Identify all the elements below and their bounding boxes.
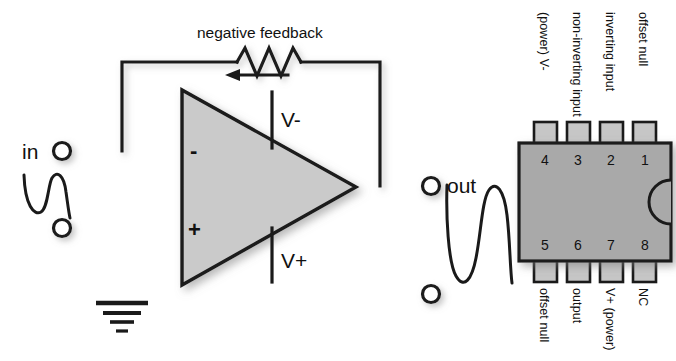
terminal-in-inverting[interactable] bbox=[54, 143, 71, 160]
chip-pin-label-1: offset null bbox=[636, 12, 650, 66]
chip-pin-label-2: inverting input bbox=[603, 12, 617, 91]
output-sine-wave bbox=[447, 185, 512, 283]
chip-pin-3-lead[interactable] bbox=[567, 122, 590, 144]
ground-symbol bbox=[96, 303, 148, 331]
chip-pin-7-lead[interactable] bbox=[600, 260, 623, 282]
noninverting-sign: + bbox=[188, 217, 201, 242]
chip-pin-number-8: 8 bbox=[641, 237, 649, 253]
chip-pin-label-6: output bbox=[570, 288, 584, 323]
chip-pin-label-3: non-inverting input bbox=[570, 12, 584, 117]
chip-pin-label-4: (power) V- bbox=[537, 12, 551, 71]
terminal-out-return[interactable] bbox=[423, 286, 440, 303]
chip-pin-5-lead[interactable] bbox=[534, 260, 557, 282]
feedback-label: negative feedback bbox=[197, 24, 323, 41]
chip-pin-number-7: 7 bbox=[607, 237, 615, 253]
chip-pin-label-7: V+ (power) bbox=[603, 288, 617, 350]
chip-pin-number-4: 4 bbox=[541, 152, 549, 168]
v-minus-label: V- bbox=[281, 108, 301, 131]
chip-pin-label-8: NC bbox=[636, 288, 650, 306]
ic-package: 4 3 2 1 5 6 7 8 bbox=[519, 122, 671, 282]
chip-pin-4-lead[interactable] bbox=[534, 122, 557, 144]
chip-pin-6-lead[interactable] bbox=[567, 260, 590, 282]
chip-pin-label-5: offset null bbox=[537, 288, 551, 342]
op-amp-triangle bbox=[182, 90, 356, 285]
chip-pin-1-lead[interactable] bbox=[633, 122, 656, 144]
terminal-in-noninverting[interactable] bbox=[54, 220, 71, 237]
chip-pin-number-1: 1 bbox=[641, 152, 649, 168]
chip-pin-2-lead[interactable] bbox=[600, 122, 623, 144]
input-sine-wave bbox=[24, 174, 70, 218]
chip-pin-number-2: 2 bbox=[607, 152, 615, 168]
figure-canvas: negative feedback in out - + V- V+ bbox=[0, 0, 676, 361]
feedback-resistor bbox=[237, 48, 301, 76]
chip-pin-8-lead[interactable] bbox=[633, 260, 656, 282]
chip-pin-number-6: 6 bbox=[574, 237, 582, 253]
terminal-out[interactable] bbox=[423, 178, 440, 195]
output-label: out bbox=[447, 174, 476, 197]
chip-pin-number-3: 3 bbox=[574, 152, 582, 168]
chip-pin-number-5: 5 bbox=[541, 237, 549, 253]
inverting-sign: - bbox=[190, 138, 197, 163]
input-label: in bbox=[22, 140, 38, 163]
v-plus-label: V+ bbox=[281, 249, 307, 272]
